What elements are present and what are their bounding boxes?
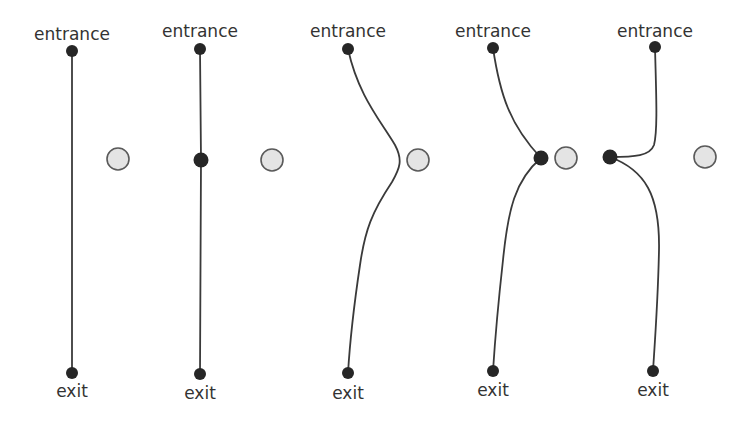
diagram-canvas: entranceexitentranceexitentranceexitentr… — [0, 0, 749, 421]
waypoint-node — [194, 153, 209, 168]
exit-node — [194, 368, 206, 380]
exit-node — [647, 365, 659, 377]
route-path — [348, 49, 400, 373]
exit-node — [66, 367, 78, 379]
entrance-label: entrance — [34, 24, 110, 44]
exit-label: exit — [332, 383, 364, 403]
exit-node — [342, 367, 354, 379]
obstacle-circle — [261, 149, 283, 171]
panel-2: entranceexit — [162, 21, 283, 403]
path-comparison-diagram: entranceexitentranceexitentranceexitentr… — [0, 0, 749, 421]
waypoint-node — [603, 150, 618, 165]
obstacle-circle — [555, 147, 577, 169]
panel-4: entranceexit — [455, 21, 577, 400]
exit-node — [487, 365, 499, 377]
exit-label: exit — [477, 380, 509, 400]
obstacle-circle — [107, 148, 129, 170]
exit-label: exit — [184, 383, 216, 403]
exit-label: exit — [637, 380, 669, 400]
entrance-node — [194, 43, 206, 55]
entrance-label: entrance — [310, 21, 386, 41]
exit-label: exit — [56, 381, 88, 401]
route-path — [493, 48, 541, 371]
panel-5: entranceexit — [603, 21, 717, 400]
route-path — [200, 49, 201, 374]
entrance-node — [66, 45, 78, 57]
obstacle-circle — [694, 146, 716, 168]
entrance-node — [487, 42, 499, 54]
entrance-label: entrance — [162, 21, 238, 41]
route-path — [610, 47, 659, 371]
entrance-node — [342, 43, 354, 55]
waypoint-node — [534, 151, 549, 166]
panel-1: entranceexit — [34, 24, 129, 401]
entrance-label: entrance — [455, 21, 531, 41]
entrance-label: entrance — [617, 21, 693, 41]
obstacle-circle — [407, 149, 429, 171]
entrance-node — [649, 41, 661, 53]
panel-3: entranceexit — [310, 21, 429, 403]
